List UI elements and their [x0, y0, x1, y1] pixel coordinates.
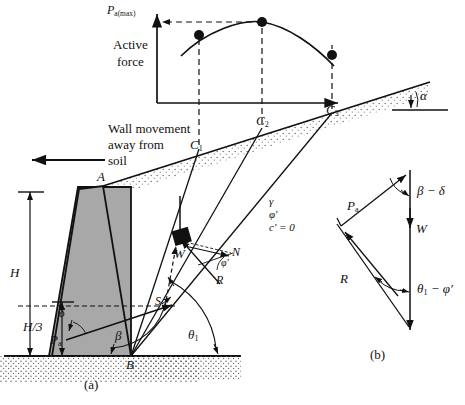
theta-angle-label: θ1	[188, 328, 198, 343]
caption-b: (b)	[370, 348, 385, 361]
polygon-bottom-angle-label: θ1 − φ′	[417, 282, 453, 297]
wedge-label-c2: C2	[256, 114, 269, 129]
soil-friction-angle-label: φ′	[269, 209, 278, 220]
wedge-weight-label: W	[174, 247, 185, 260]
active-force-curve	[181, 22, 334, 66]
normal-force-label: N	[232, 246, 240, 258]
pa-max-label: Pa(max)	[107, 4, 135, 17]
chart-axis-title-line2: force	[117, 55, 144, 68]
wall-height-label: H	[10, 266, 19, 279]
caption-a: (a)	[84, 378, 98, 391]
polygon-top-angle-label: β − δ	[417, 184, 445, 197]
curve-point-c1	[194, 30, 204, 40]
wall-top-point-label: A	[97, 170, 105, 183]
soil-element-block	[171, 227, 191, 246]
phi-angle-label: φ′	[221, 258, 229, 268]
delta-angle-label: δ	[59, 307, 65, 319]
figure-container: Pa(max) Active force C1 C2 C3 Wall movem…	[0, 0, 465, 405]
soil-cohesion-label: c′ = 0	[269, 222, 295, 233]
active-force-chart-axes	[157, 14, 338, 103]
wall-base-point-label: B	[126, 358, 134, 371]
chart-axis-title-line1: Active	[113, 38, 148, 51]
figure-vector-layer	[0, 0, 465, 405]
wedge-label-c1: C1	[190, 138, 203, 153]
beta-angle-label: β	[115, 329, 121, 342]
reaction-force-label: R	[216, 274, 223, 286]
wall-movement-note-line3: soil	[108, 154, 127, 167]
wedge-label-c3: C3	[326, 103, 339, 118]
polygon-active-force-label: Pa	[347, 199, 359, 214]
wall-third-height-label: H/3	[23, 320, 43, 333]
curve-point-c3	[327, 50, 337, 60]
soil-unit-weight-label: γ	[269, 196, 273, 207]
force-polygon	[337, 170, 410, 330]
active-force-label: Pa	[50, 333, 62, 348]
alpha-angle-label: α	[420, 89, 427, 102]
polygon-weight-label: W	[416, 222, 427, 235]
wall-movement-note-line2: away from	[108, 138, 164, 151]
wall-movement-note-line1: Wall movement	[108, 122, 190, 135]
shear-force-label: S	[155, 295, 161, 307]
curve-point-c2	[257, 17, 267, 27]
polygon-reaction-label: R	[340, 272, 348, 285]
foundation-soil-right	[131, 356, 241, 380]
